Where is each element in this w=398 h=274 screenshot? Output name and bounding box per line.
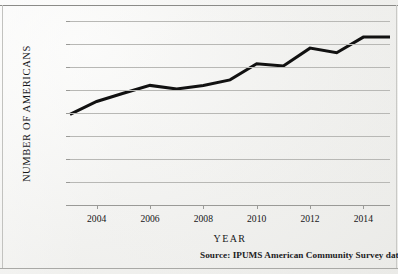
x-axis-tick-mark bbox=[363, 205, 364, 209]
x-axis-tick-label: 2010 bbox=[235, 213, 279, 224]
y-axis-tick-mark bbox=[66, 21, 70, 22]
source-note: Source: IPUMS American Community Survey … bbox=[200, 250, 390, 260]
x-axis-tick-label: 2004 bbox=[75, 213, 119, 224]
gridline-y bbox=[70, 182, 390, 183]
x-axis-tick-mark bbox=[203, 205, 204, 209]
x-axis-tick-mark bbox=[97, 205, 98, 209]
gridline-y bbox=[70, 44, 390, 45]
y-axis-tick-mark bbox=[66, 113, 70, 114]
x-axis-tick-mark bbox=[310, 205, 311, 209]
y-axis-tick-mark bbox=[66, 182, 70, 183]
x-axis-tick-mark bbox=[150, 205, 151, 209]
figure-right-border bbox=[396, 5, 397, 268]
figure-top-border bbox=[0, 5, 398, 6]
y-axis-tick-mark bbox=[66, 44, 70, 45]
gridline-y bbox=[70, 67, 390, 68]
x-axis-title: YEAR bbox=[70, 233, 390, 244]
y-axis-title: NUMBER OF AMERICANS bbox=[21, 34, 32, 194]
y-axis-tick-mark bbox=[66, 136, 70, 137]
chart-figure: NUMBER OF AMERICANS 050,000100,000150,00… bbox=[0, 0, 398, 274]
plot-area: 050,000100,000150,000200,000250,000300,0… bbox=[70, 21, 390, 205]
series-polyline bbox=[70, 37, 390, 114]
x-axis-tick-mark bbox=[257, 205, 258, 209]
gridline-y bbox=[70, 159, 390, 160]
x-axis-tick-label: 2012 bbox=[288, 213, 332, 224]
gridline-y bbox=[70, 90, 390, 91]
gridline-y bbox=[70, 136, 390, 137]
y-axis-tick-mark bbox=[66, 67, 70, 68]
gridline-y bbox=[70, 113, 390, 114]
x-axis-tick-label: 2006 bbox=[128, 213, 172, 224]
x-axis-tick-label: 2008 bbox=[181, 213, 225, 224]
y-axis-tick-mark bbox=[66, 159, 70, 160]
gridline-y bbox=[70, 21, 390, 22]
figure-bottom-border bbox=[0, 268, 398, 269]
x-axis-tick-label: 2014 bbox=[341, 213, 385, 224]
gridline-y bbox=[70, 205, 390, 206]
figure-left-border bbox=[2, 5, 3, 268]
y-axis-tick-mark bbox=[66, 205, 70, 206]
y-axis-tick-mark bbox=[66, 90, 70, 91]
